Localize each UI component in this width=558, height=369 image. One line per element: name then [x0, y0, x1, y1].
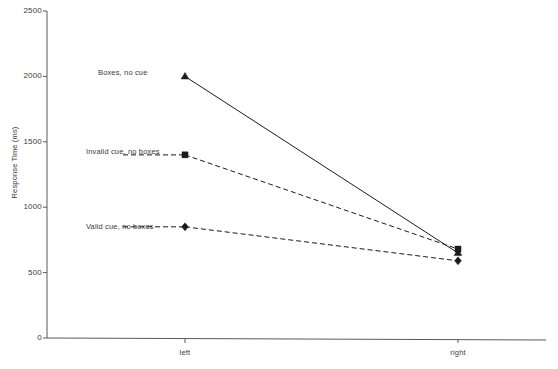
data-point-marker-triangle [181, 72, 189, 79]
data-point-marker-diamond [182, 223, 189, 231]
series-2 [123, 152, 461, 252]
data-point-marker-square [182, 152, 188, 158]
plot-area [0, 0, 558, 369]
series-line [185, 76, 458, 253]
data-point-marker-square [455, 246, 461, 252]
line-chart: Response Time (ms) 2500 2000 1500 1000 5… [0, 0, 558, 369]
y-axis-ticks [43, 11, 47, 338]
series-layer [123, 72, 462, 264]
series-line [185, 227, 458, 261]
series-1 [123, 72, 462, 255]
axes [43, 11, 546, 343]
series-line [185, 155, 458, 249]
series-3 [123, 223, 461, 265]
data-point-marker-diamond [455, 257, 462, 265]
x-axis-line [47, 338, 546, 340]
